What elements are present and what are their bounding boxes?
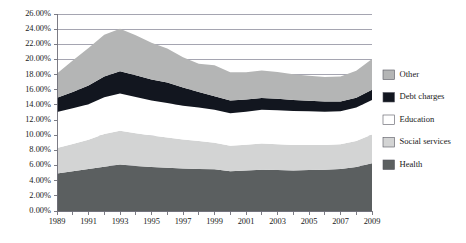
y-tick-label: 22.00% <box>25 39 51 48</box>
y-tick-label: 26.00% <box>25 9 51 18</box>
x-tick-label: 1993 <box>112 217 129 226</box>
x-tick-label: 1997 <box>175 217 192 226</box>
y-tick-label: 10.00% <box>25 130 51 139</box>
legend-swatch-education <box>383 115 395 125</box>
y-tick-label: 8.00% <box>29 145 51 154</box>
x-tick-label: 1999 <box>206 217 223 226</box>
legend-label-health: Health <box>400 159 424 169</box>
legend-swatch-other <box>383 70 395 80</box>
y-tick-label: 16.00% <box>25 85 51 94</box>
y-tick-label: 20.00% <box>25 54 51 63</box>
x-tick-label: 1991 <box>80 217 97 226</box>
legend-label-debt-charges: Debt charges <box>400 91 446 101</box>
y-tick-label: 24.00% <box>25 24 51 33</box>
y-tick-label: 0.00% <box>29 206 51 215</box>
chart-canvas: 0.00%2.00%4.00%6.00%8.00%10.00%12.00%14.… <box>0 0 466 243</box>
x-tick-label: 1995 <box>143 217 160 226</box>
legend-swatch-health <box>383 160 395 170</box>
x-tick-label: 2001 <box>238 217 255 226</box>
x-tick-label: 2009 <box>364 217 381 226</box>
y-tick-label: 14.00% <box>25 100 51 109</box>
legend-label-other: Other <box>400 69 420 79</box>
y-tick-label: 4.00% <box>29 176 51 185</box>
legend-label-education: Education <box>400 114 436 124</box>
legend-label-social-services: Social services <box>400 136 452 146</box>
x-tick-label: 1989 <box>49 217 66 226</box>
area-series-health <box>57 163 372 211</box>
legend-swatch-debt-charges <box>383 93 395 103</box>
y-tick-label: 18.00% <box>25 70 51 79</box>
x-tick-label: 2005 <box>301 217 318 226</box>
x-tick-label: 2007 <box>332 217 349 226</box>
y-tick-label: 6.00% <box>29 160 51 169</box>
stacked-area-chart: 0.00%2.00%4.00%6.00%8.00%10.00%12.00%14.… <box>0 0 466 243</box>
legend-swatch-social-services <box>383 138 395 148</box>
y-tick-label: 2.00% <box>29 191 51 200</box>
y-tick-label: 12.00% <box>25 115 51 124</box>
x-tick-label: 2003 <box>269 217 286 226</box>
